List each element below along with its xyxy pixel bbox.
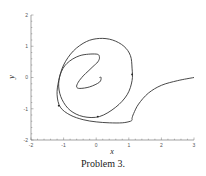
x-tick-label: -2 xyxy=(29,142,34,148)
x-tick-label: 3 xyxy=(193,142,196,148)
y-tick-label: -1 xyxy=(24,106,29,112)
x-tick-label: 2 xyxy=(160,142,163,148)
trajectory-marker xyxy=(131,73,133,75)
trajectory-curve xyxy=(57,38,194,123)
tick-marks xyxy=(31,15,194,140)
y-tick-label: 2 xyxy=(25,12,28,18)
x-tick-label: -1 xyxy=(61,142,66,148)
y-tick-label: 0 xyxy=(25,74,28,80)
figure-caption: Problem 3. xyxy=(0,158,206,169)
phase-plot: -2-10123-2-1012 x y xyxy=(0,0,206,176)
trajectory-markers xyxy=(58,73,133,117)
y-tick-label: 1 xyxy=(25,43,28,49)
y-tick-label: -2 xyxy=(24,137,29,143)
tick-labels: -2-10123-2-1012 xyxy=(24,12,196,148)
y-axis-title: y xyxy=(7,75,16,80)
x-tick-label: 1 xyxy=(127,142,130,148)
trajectory-marker xyxy=(97,116,99,118)
trajectory-marker xyxy=(58,105,60,107)
axes xyxy=(31,15,194,140)
x-axis-title: x xyxy=(109,147,114,156)
x-tick-label: 0 xyxy=(95,142,98,148)
